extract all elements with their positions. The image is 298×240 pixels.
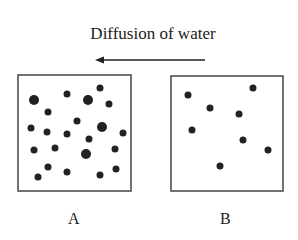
solute-particle xyxy=(236,111,243,118)
solute-particle xyxy=(52,145,59,152)
solute-particle xyxy=(240,137,247,144)
solute-particle xyxy=(35,174,42,181)
diffusion-diagram xyxy=(0,0,298,240)
solute-particle xyxy=(64,131,71,138)
container-b xyxy=(171,76,283,191)
solute-particle xyxy=(31,147,38,154)
solute-particle xyxy=(97,85,104,92)
solute-particle xyxy=(120,130,127,137)
solute-particle xyxy=(86,136,93,143)
solute-particle xyxy=(97,172,104,179)
solute-particle xyxy=(81,149,91,159)
solute-particle xyxy=(74,118,81,125)
container-a-label: A xyxy=(68,210,80,228)
solute-particle xyxy=(189,127,196,134)
solute-particle xyxy=(64,91,71,98)
solute-particle xyxy=(113,166,120,173)
solute-particle xyxy=(207,105,214,112)
solute-particle xyxy=(45,164,52,171)
container-a xyxy=(18,75,131,191)
solute-particle xyxy=(97,122,107,132)
solute-particle xyxy=(44,129,51,136)
solute-particle xyxy=(185,92,192,99)
solute-particle xyxy=(217,163,224,170)
solute-particle xyxy=(64,169,71,176)
solute-particle xyxy=(106,101,113,108)
container-b-label: B xyxy=(220,210,231,228)
solute-particle xyxy=(112,146,119,153)
solute-particle xyxy=(250,85,257,92)
left-arrow-icon xyxy=(95,57,205,64)
solute-particle xyxy=(83,95,93,105)
solute-particle xyxy=(265,147,272,154)
container-frame xyxy=(18,75,131,191)
solute-particle xyxy=(45,109,52,116)
solute-particle xyxy=(29,95,39,105)
solute-particle xyxy=(28,125,35,132)
